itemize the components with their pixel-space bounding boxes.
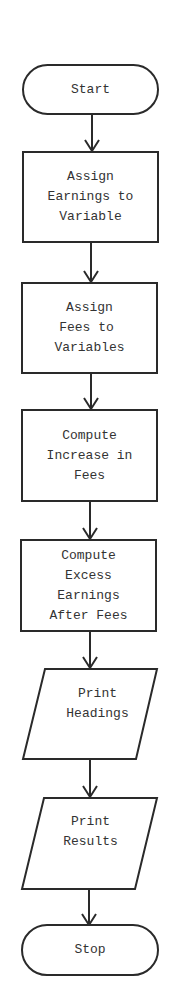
compute-increase-label: Compute Increase in Fees bbox=[22, 410, 157, 501]
compute-excess-label-line: Excess bbox=[65, 566, 112, 586]
assign-fees-label: Assign Fees to Variables bbox=[22, 283, 157, 373]
compute-excess-label-line: Earnings bbox=[57, 586, 119, 606]
arrow-assign-fees-to-compute-increase bbox=[84, 373, 98, 409]
assign-earnings-label-line: Variable bbox=[59, 207, 121, 227]
assign-earnings-label: Assign Earnings to Variable bbox=[23, 152, 158, 242]
assign-fees-label-line: Assign bbox=[66, 298, 113, 318]
print-headings-label-line: Headings bbox=[66, 704, 128, 724]
compute-excess-label-line: After Fees bbox=[49, 606, 127, 626]
compute-excess-label: Compute Excess Earnings After Fees bbox=[21, 540, 156, 631]
print-results-label-line: Results bbox=[63, 832, 118, 852]
print-results-label: Print Results bbox=[23, 798, 158, 866]
compute-excess-label-line: Compute bbox=[61, 546, 116, 566]
compute-increase-label-line: Fees bbox=[74, 466, 105, 486]
start-label-line: Start bbox=[71, 80, 110, 100]
assign-fees-label-line: Variables bbox=[54, 338, 124, 358]
arrow-print-headings-to-print-results bbox=[83, 759, 97, 797]
stop-label: Stop bbox=[22, 925, 158, 975]
print-headings-label-line: Print bbox=[78, 684, 117, 704]
print-results-label-line: Print bbox=[71, 812, 110, 832]
arrow-compute-increase-to-compute-excess bbox=[83, 501, 97, 539]
arrow-print-results-to-stop bbox=[82, 889, 96, 925]
arrow-assign-earnings-to-assign-fees bbox=[84, 242, 98, 282]
assign-fees-label-line: Fees to bbox=[59, 318, 114, 338]
print-headings-label: Print Headings bbox=[30, 669, 165, 739]
assign-earnings-label-line: Assign bbox=[67, 167, 114, 187]
compute-increase-label-line: Increase in bbox=[47, 446, 133, 466]
arrow-compute-excess-to-print-headings bbox=[83, 631, 97, 668]
arrow-start-to-assign-earnings bbox=[85, 114, 99, 151]
stop-label-line: Stop bbox=[74, 940, 105, 960]
start-label: Start bbox=[23, 65, 158, 114]
assign-earnings-label-line: Earnings to bbox=[48, 187, 134, 207]
compute-increase-label-line: Compute bbox=[62, 426, 117, 446]
